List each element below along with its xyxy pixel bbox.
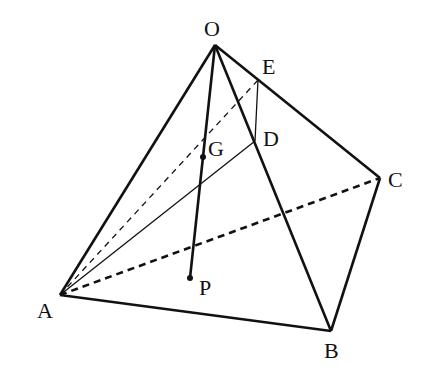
label-B: B: [324, 338, 339, 363]
diagram-svg: O E D G C P A B: [0, 0, 433, 382]
edge-AB: [60, 295, 331, 331]
label-O: O: [204, 16, 220, 41]
label-P: P: [199, 275, 211, 300]
segment-AD: [60, 141, 255, 295]
label-G: G: [208, 136, 224, 161]
label-D: D: [263, 126, 279, 151]
label-E: E: [262, 54, 275, 79]
edge-OC: [215, 45, 380, 178]
segment-ED: [255, 80, 258, 141]
edge-OB: [215, 45, 331, 331]
edge-AE-dashed: [60, 80, 258, 295]
point-G-dot: [200, 154, 206, 160]
tetrahedron-diagram: O E D G C P A B: [0, 0, 433, 382]
label-A: A: [37, 298, 53, 323]
label-C: C: [388, 167, 403, 192]
edge-BC: [331, 178, 380, 331]
edge-AC-dashed: [60, 178, 380, 295]
point-P-dot: [187, 275, 193, 281]
